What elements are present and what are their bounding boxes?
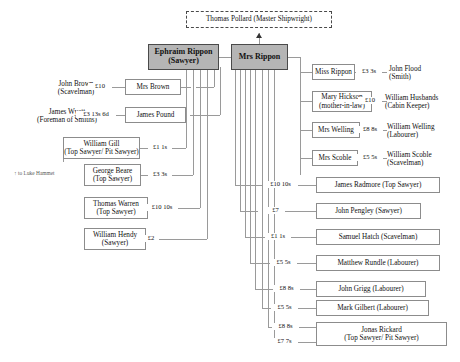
spine-hendy	[207, 67, 208, 239]
amount-george-beare: £3 3s	[148, 171, 172, 178]
label-william-welling: William Welling (Labourer)	[387, 123, 459, 139]
amount-william-gill: £1 1s	[148, 144, 172, 151]
node-label-line2: (Top Sawyer/ Pit Sawyer)	[344, 334, 418, 342]
connector-brown-right	[181, 87, 191, 88]
node-george-beare[interactable]: George Beare (Top Sawyer)	[84, 164, 141, 186]
connector-pengley-box	[283, 211, 316, 212]
connector-hatch-box	[289, 237, 316, 238]
node-label-line1: Mrs Welling	[318, 126, 354, 134]
connector-mrsrippon-right	[288, 57, 300, 58]
node-ephraim-rippon[interactable]: Ephraim Rippon (Sawyer)	[148, 44, 219, 70]
amount-william-scoble: £5 5s	[357, 154, 383, 161]
amount-john-pengley: £7	[266, 207, 285, 214]
node-label-line2: (Top Sawyer)	[96, 208, 135, 216]
connector-rickard-top-box	[297, 327, 316, 328]
spine-pengley	[240, 67, 241, 211]
node-label-line1: George Beare	[93, 167, 133, 175]
node-label-line1: Matthew Rundle (Labourer)	[337, 259, 418, 267]
node-mrs-rippon[interactable]: Mrs Rippon	[231, 44, 288, 70]
node-samuel-hatch[interactable]: Samuel Hatch (Scavelman)	[316, 229, 440, 245]
node-mrs-scoble[interactable]: Mrs Scoble	[312, 150, 358, 166]
node-label-line1: Mrs Brown	[137, 83, 170, 91]
node-label-line1: Mrs Scoble	[319, 154, 352, 162]
label-line2: (Smith)	[389, 73, 457, 81]
node-label-line1: Miss Rippon	[315, 68, 352, 76]
node-label-line2: (Sawyer)	[168, 57, 199, 66]
amount-mark-gilbert: £5 5s	[271, 304, 298, 311]
connector-grigg-box	[298, 289, 316, 290]
label-line1: John Flood	[389, 65, 457, 73]
label-john-flood: John Flood (Smith)	[389, 65, 457, 81]
spine-hatch	[245, 67, 246, 237]
spine-rickard-bottom	[274, 67, 275, 342]
master-shipwright-box[interactable]: Thomas Pollard (Master Shipwright)	[186, 11, 332, 28]
label-william-husbands: William Husbands (Cabin Keeper)	[385, 94, 459, 110]
node-thomas-warren[interactable]: Thomas Warren (Top Sawyer)	[84, 197, 148, 219]
connector-gilbert-box	[296, 308, 316, 309]
connector-radmore-box	[296, 185, 316, 186]
node-james-pound[interactable]: James Pound	[125, 107, 186, 123]
luke-hammet-note: ↑ to Luke Hammet	[14, 170, 55, 176]
connector-pound-top	[190, 115, 220, 116]
connector-rundle-box	[295, 263, 316, 264]
node-label-line1: John Pengley (Sawyer)	[335, 207, 402, 215]
connector-johnbrown-mrsbrown	[111, 87, 125, 88]
node-john-pengley[interactable]: John Pengley (Sawyer)	[316, 203, 421, 219]
connector-rickard-bottom-box	[296, 342, 316, 343]
node-label-line1: John Grigg (Labourer)	[338, 285, 403, 293]
node-label-line1: William Hendy	[93, 231, 137, 239]
node-label-line2: (Sawyer)	[102, 239, 128, 247]
amount-thomas-warren: £10 10s	[146, 204, 178, 211]
spine-brown	[214, 67, 215, 87]
node-label-line1: James Radmore (Top Sawyer)	[335, 181, 422, 189]
node-label-line2: (Top Sawyer)	[93, 175, 132, 183]
node-william-hendy[interactable]: William Hendy (Sawyer)	[84, 228, 146, 250]
node-william-gill[interactable]: William Gill (Top Sawyer/ Pit Sawyer)	[63, 137, 140, 159]
node-label-line1: Mark Gilbert (Labourer)	[337, 304, 408, 312]
spine-beare	[193, 67, 194, 175]
connector-to-mary-hickson	[300, 101, 312, 102]
amount-jonas-rickard-top: £8 8s	[272, 323, 299, 330]
amount-john-brown: £10	[88, 83, 112, 90]
label-line2: (Labourer)	[387, 131, 459, 139]
diagram-canvas: Thomas Pollard (Master Shipwright) Ephra…	[0, 0, 460, 362]
node-jonas-rickard[interactable]: Jonas Rickard (Top Sawyer/ Pit Sawyer)	[316, 322, 447, 346]
node-label-line1: Samuel Hatch (Scavelman)	[339, 233, 418, 241]
spine-grigg	[255, 67, 256, 289]
connector-ephraim-mrsrippon	[219, 57, 231, 58]
node-label-line1: James Pound	[137, 111, 175, 119]
node-john-grigg[interactable]: John Grigg (Labourer)	[316, 281, 426, 297]
node-matthew-rundle[interactable]: Matthew Rundle (Labourer)	[316, 255, 440, 271]
amount-jonas-rickard-bottom: £7 7s	[271, 338, 298, 345]
connector-brown-top	[196, 87, 214, 88]
node-mark-gilbert[interactable]: Mark Gilbert (Labourer)	[316, 300, 429, 316]
label-line1: William Welling	[387, 123, 459, 131]
spine-gill	[186, 67, 187, 148]
amount-james-wyatt: £3 13s 6d	[76, 111, 116, 118]
node-label-line1: William Gill	[83, 140, 119, 148]
node-miss-rippon[interactable]: Miss Rippon	[312, 64, 355, 80]
spine-rundle	[250, 67, 251, 263]
master-shipwright-label: Thomas Pollard (Master Shipwright)	[206, 15, 312, 23]
connector-to-mrs-welling	[300, 130, 312, 131]
label-line1: William Scoble	[387, 151, 459, 159]
node-mrs-welling[interactable]: Mrs Welling	[312, 122, 360, 138]
node-label-line1: Jonas Rickard	[361, 326, 402, 334]
arrow-up-icon	[256, 33, 262, 38]
connector-hendy	[152, 239, 207, 240]
spine-radmore	[235, 67, 236, 185]
node-label-line1: Mrs Rippon	[239, 53, 281, 62]
label-line1: William Husbands	[385, 94, 459, 102]
amount-john-grigg: £8 8s	[273, 285, 300, 292]
label-line2: (Cabin Keeper)	[385, 102, 459, 110]
label-william-scoble: William Scoble (Scavelman)	[387, 151, 459, 167]
amount-william-husbands: £10	[358, 97, 382, 104]
node-james-radmore[interactable]: James Radmore (Top Sawyer)	[316, 177, 440, 193]
node-label-line1: Thomas Warren	[93, 200, 139, 208]
node-mrs-brown[interactable]: Mrs Brown	[125, 79, 181, 95]
connector-grigg	[255, 289, 273, 290]
amount-matthew-rundle: £5 5s	[270, 259, 297, 266]
connector-to-miss-rippon	[300, 72, 312, 73]
amount-john-flood: £3 3s	[356, 68, 382, 75]
label-line2: (Scavelman)	[387, 159, 459, 167]
